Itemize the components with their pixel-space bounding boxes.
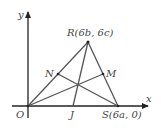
label-S: S(6a, 0) <box>102 110 142 120</box>
point-N <box>57 73 60 76</box>
point-R <box>87 41 90 44</box>
x-axis-label: x <box>146 94 152 104</box>
label-N: N <box>45 69 54 79</box>
segment-OM <box>28 74 103 106</box>
label-O: O <box>16 110 24 120</box>
segment-RJ <box>73 42 88 106</box>
label-R: R(6b, 6c) <box>67 28 113 38</box>
y-axis-label: y <box>18 10 24 20</box>
point-S <box>117 105 120 108</box>
label-J: J <box>70 110 74 120</box>
point-M <box>102 73 105 76</box>
point-O <box>27 105 30 108</box>
label-M: M <box>106 69 116 79</box>
